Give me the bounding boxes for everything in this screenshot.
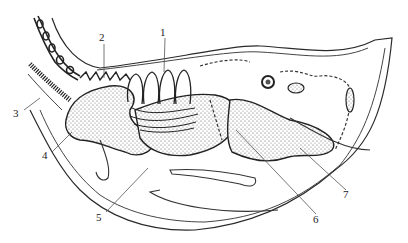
label-6: 6 <box>313 214 319 225</box>
lower-process <box>170 169 256 186</box>
lower-blade <box>150 190 278 211</box>
anatomical-figure: 1 2 3 4 5 6 7 <box>0 0 408 243</box>
label-5: 5 <box>96 212 102 223</box>
right-oval <box>346 88 354 112</box>
small-oval <box>288 83 304 93</box>
section-drawing <box>0 0 408 243</box>
chain-structure <box>34 16 80 80</box>
serrated-edge <box>80 72 130 80</box>
stippled-mass-right <box>228 99 334 161</box>
label-4: 4 <box>42 150 48 161</box>
inner-outline <box>97 48 368 70</box>
label-1: 1 <box>160 27 166 38</box>
label-3: 3 <box>13 108 19 119</box>
label-7: 7 <box>343 189 349 200</box>
label-2: 2 <box>99 32 105 43</box>
